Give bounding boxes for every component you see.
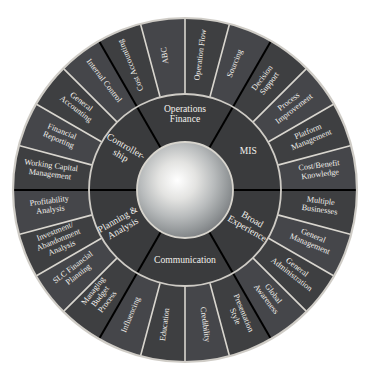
inner-sector-label-operations-finance: OperationsFinance bbox=[164, 103, 206, 125]
hub-sphere bbox=[137, 142, 233, 238]
competency-wheel-diagram: Cost AccountingABCOperation FlowSourcing… bbox=[0, 0, 371, 382]
inner-sector-label-communication: Communication bbox=[154, 254, 216, 265]
inner-sector-label-mis: MIS bbox=[240, 145, 257, 156]
wheel-svg-canvas: Cost AccountingABCOperation FlowSourcing… bbox=[0, 0, 371, 382]
